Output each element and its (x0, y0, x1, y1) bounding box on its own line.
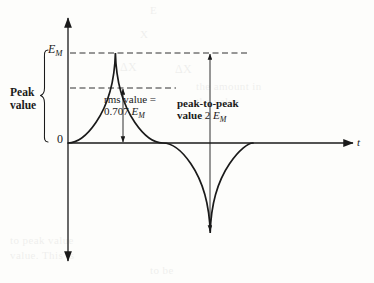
peak-to-peak-label: peak-to-peak value 2 EM (177, 97, 239, 122)
amplitude-subscript: M (55, 48, 62, 58)
peak-to-peak-line1: peak-to-peak (177, 97, 239, 109)
x-axis-label: t (357, 136, 360, 148)
peak-value-line1: Peak (10, 86, 36, 99)
peak-value-label: Peak value (10, 86, 36, 112)
rms-value-label: rms value = 0.707 EM (104, 93, 156, 118)
peak-to-peak-number: 2 (205, 109, 213, 121)
amplitude-label: EM (48, 43, 63, 56)
peak-value-brace (41, 50, 49, 142)
peak-to-peak-prefix: value (177, 109, 205, 121)
rms-value-number: 0.707 (104, 105, 132, 117)
origin-label: 0 (57, 133, 63, 146)
rms-value-line2: 0.707 EM (104, 105, 156, 117)
peak-to-peak-symbol: E (213, 109, 220, 121)
peak-to-peak-line2: value 2 EM (177, 109, 239, 121)
rms-value-subscript: M (138, 112, 145, 121)
peak-to-peak-subscript: M (220, 116, 227, 125)
rms-value-line1: rms value = (104, 93, 156, 105)
waveform-figure: E X ΔX ΔX the amount in the value can be… (0, 0, 374, 283)
peak-value-line2: value (10, 99, 36, 112)
